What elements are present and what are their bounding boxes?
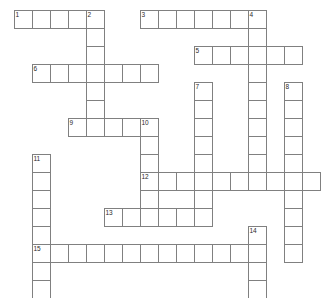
crossword-cell[interactable]	[122, 208, 141, 227]
crossword-cell[interactable]	[194, 244, 213, 263]
crossword-cell[interactable]	[284, 136, 303, 155]
crossword-cell[interactable]	[122, 244, 141, 263]
crossword-cell[interactable]	[230, 46, 249, 65]
crossword-cell[interactable]	[50, 64, 69, 83]
crossword-cell[interactable]	[122, 118, 141, 137]
crossword-cell[interactable]	[212, 244, 231, 263]
crossword-cell[interactable]	[284, 190, 303, 209]
crossword-cell[interactable]	[176, 244, 195, 263]
crossword-cell[interactable]	[248, 46, 267, 65]
crossword-cell[interactable]	[248, 154, 267, 173]
crossword-cell[interactable]	[140, 172, 159, 191]
crossword-cell[interactable]	[140, 154, 159, 173]
crossword-cell[interactable]	[194, 10, 213, 29]
crossword-cell[interactable]	[248, 280, 267, 298]
crossword-cell[interactable]	[194, 136, 213, 155]
crossword-cell[interactable]	[212, 46, 231, 65]
crossword-cell[interactable]	[32, 208, 51, 227]
crossword-cell[interactable]	[248, 28, 267, 47]
crossword-cell[interactable]	[68, 10, 87, 29]
crossword-cell[interactable]	[158, 244, 177, 263]
crossword-cell[interactable]	[284, 226, 303, 245]
crossword-cell[interactable]	[122, 64, 141, 83]
crossword-cell[interactable]	[158, 172, 177, 191]
crossword-cell[interactable]	[194, 118, 213, 137]
crossword-cell[interactable]	[86, 28, 105, 47]
crossword-grid[interactable]: 123456789101112131415	[0, 0, 327, 298]
crossword-cell[interactable]	[230, 172, 249, 191]
crossword-cell[interactable]	[158, 208, 177, 227]
crossword-cell[interactable]	[32, 244, 51, 263]
crossword-cell[interactable]	[140, 118, 159, 137]
crossword-cell[interactable]	[284, 100, 303, 119]
crossword-cell[interactable]	[32, 10, 51, 29]
crossword-cell[interactable]	[248, 244, 267, 263]
crossword-cell[interactable]	[104, 208, 123, 227]
crossword-cell[interactable]	[86, 244, 105, 263]
crossword-cell[interactable]	[266, 172, 285, 191]
crossword-cell[interactable]	[32, 262, 51, 281]
crossword-cell[interactable]	[302, 172, 321, 191]
crossword-cell[interactable]	[86, 10, 105, 29]
crossword-cell[interactable]	[230, 244, 249, 263]
crossword-cell[interactable]	[284, 118, 303, 137]
crossword-cell[interactable]	[68, 118, 87, 137]
crossword-cell[interactable]	[248, 100, 267, 119]
crossword-cell[interactable]	[194, 172, 213, 191]
crossword-cell[interactable]	[86, 64, 105, 83]
crossword-cell[interactable]	[50, 10, 69, 29]
crossword-cell[interactable]	[194, 100, 213, 119]
crossword-cell[interactable]	[194, 154, 213, 173]
crossword-cell[interactable]	[86, 100, 105, 119]
crossword-cell[interactable]	[32, 190, 51, 209]
crossword-cell[interactable]	[32, 64, 51, 83]
crossword-cell[interactable]	[176, 172, 195, 191]
crossword-cell[interactable]	[194, 190, 213, 209]
crossword-cell[interactable]	[86, 82, 105, 101]
crossword-cell[interactable]	[248, 262, 267, 281]
crossword-cell[interactable]	[284, 244, 303, 263]
crossword-cell[interactable]	[104, 64, 123, 83]
crossword-cell[interactable]	[248, 172, 267, 191]
crossword-cell[interactable]	[32, 280, 51, 298]
crossword-cell[interactable]	[68, 244, 87, 263]
crossword-cell[interactable]	[230, 10, 249, 29]
crossword-cell[interactable]	[248, 10, 267, 29]
crossword-cell[interactable]	[158, 10, 177, 29]
crossword-cell[interactable]	[14, 10, 33, 29]
crossword-cell[interactable]	[68, 64, 87, 83]
crossword-cell[interactable]	[284, 154, 303, 173]
crossword-cell[interactable]	[104, 244, 123, 263]
crossword-puzzle: Crossword Puzzle Grid 123456789101112131…	[0, 0, 327, 298]
crossword-cell[interactable]	[248, 226, 267, 245]
crossword-cell[interactable]	[194, 46, 213, 65]
crossword-cell[interactable]	[140, 190, 159, 209]
crossword-cell[interactable]	[104, 118, 123, 137]
crossword-cell[interactable]	[284, 82, 303, 101]
crossword-cell[interactable]	[248, 118, 267, 137]
crossword-cell[interactable]	[140, 10, 159, 29]
crossword-cell[interactable]	[194, 82, 213, 101]
crossword-cell[interactable]	[140, 64, 159, 83]
crossword-cell[interactable]	[86, 118, 105, 137]
crossword-cell[interactable]	[140, 136, 159, 155]
crossword-cell[interactable]	[86, 46, 105, 65]
crossword-cell[interactable]	[32, 154, 51, 173]
crossword-cell[interactable]	[266, 46, 285, 65]
crossword-cell[interactable]	[248, 136, 267, 155]
crossword-cell[interactable]	[248, 64, 267, 83]
crossword-cell[interactable]	[212, 10, 231, 29]
crossword-cell[interactable]	[176, 10, 195, 29]
crossword-cell[interactable]	[194, 208, 213, 227]
crossword-cell[interactable]	[248, 82, 267, 101]
crossword-cell[interactable]	[284, 46, 303, 65]
crossword-cell[interactable]	[140, 208, 159, 227]
crossword-cell[interactable]	[32, 172, 51, 191]
crossword-cell[interactable]	[140, 244, 159, 263]
crossword-cell[interactable]	[176, 208, 195, 227]
crossword-cell[interactable]	[212, 172, 231, 191]
crossword-cell[interactable]	[284, 172, 303, 191]
crossword-cell[interactable]	[284, 208, 303, 227]
crossword-cell[interactable]	[32, 226, 51, 245]
crossword-cell[interactable]	[50, 244, 69, 263]
